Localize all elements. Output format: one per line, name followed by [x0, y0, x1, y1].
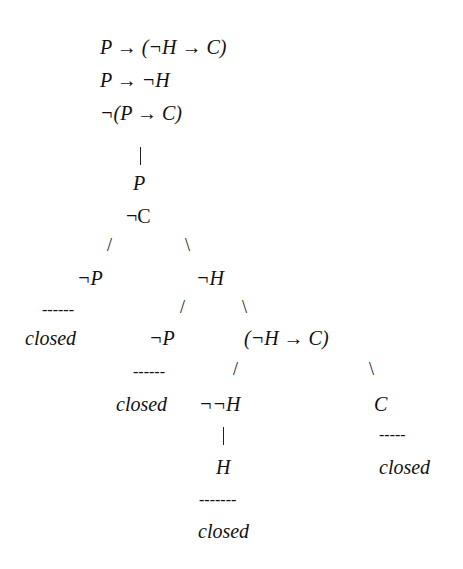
premise-2: P → ¬H: [100, 70, 170, 90]
premise-1: P → (¬H → C): [100, 37, 226, 57]
closed-label-3: closed: [198, 521, 249, 541]
node-h: H: [216, 457, 230, 477]
node-double-not-h: ¬¬H: [199, 394, 240, 414]
closed-mark-3: -------: [199, 492, 236, 508]
node-not-h: ¬H: [196, 268, 224, 288]
closed-label-1: closed: [25, 328, 76, 348]
node-conditional: (¬H → C): [244, 328, 329, 348]
node-p: P: [133, 173, 145, 193]
branch-left-3: /: [233, 360, 238, 378]
branch-right-3: \: [369, 360, 374, 378]
closed-label-2: closed: [116, 394, 167, 414]
closed-mark-2: ------: [133, 364, 165, 380]
node-left-not-p: ¬P: [77, 268, 103, 288]
node-not-c: ¬C: [126, 206, 151, 226]
node-mid-not-p: ¬P: [149, 328, 175, 348]
branch-left-2: /: [180, 298, 185, 316]
closed-mark-1: ------: [42, 302, 74, 318]
branch-right-2: \: [242, 298, 247, 316]
closed-mark-4: -----: [379, 427, 406, 443]
premise-3: ¬(P → C): [100, 103, 182, 123]
branch-line-vertical-1: [140, 147, 141, 165]
branch-line-vertical-2: [223, 427, 224, 445]
closed-label-4: closed: [379, 457, 430, 477]
branch-left-1: /: [107, 236, 112, 254]
branch-right-1: \: [185, 236, 190, 254]
node-c: C: [374, 394, 387, 414]
